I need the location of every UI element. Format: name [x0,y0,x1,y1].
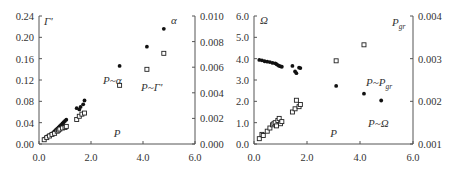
series-annotation: P~α [102,74,122,86]
chart-right: 0.02.04.06.00.01.02.03.04.05.06.00.0010.… [222,0,455,177]
chart-left-plot: 0.02.04.06.00.000.040.080.120.160.200.24… [0,0,228,177]
y-left-tick-label: 0.08 [16,96,34,107]
data-point [334,59,338,63]
y-left-tick-label: 2.0 [236,96,249,107]
y-right-tick-label: 0.001 [418,139,442,150]
x-tick-label: 2.0 [300,152,313,163]
y-left-tick-label: 6.0 [236,11,249,22]
data-point [81,102,85,106]
y-right-tick-label: 0.002 [200,113,224,124]
data-point [83,99,87,103]
y-left-tick-label: 5.0 [236,32,249,43]
data-point [295,71,299,75]
y-left-tick-label: 0.12 [16,75,34,86]
data-point [334,84,338,88]
chart-left: 0.02.04.06.00.000.040.080.120.160.200.24… [0,0,228,177]
data-point [280,65,284,69]
y-left-tick-label: 0.04 [16,118,35,129]
data-point [298,103,302,107]
data-point [257,137,261,141]
data-point [280,120,284,124]
y-left-tick-label: 0.16 [16,54,34,65]
data-point [362,43,366,47]
x-tick-label: 0.0 [247,152,260,163]
y-left-tick-label: 0.0 [236,139,249,150]
axes: 0.02.04.06.00.01.02.03.04.05.06.00.0010.… [236,11,443,163]
series-annotation: P~Γ' [140,81,163,93]
data-point [162,27,166,31]
y-left-axis-label: Ω [260,14,268,26]
data-point [291,64,295,68]
y-right-tick-label: 0.004 [418,11,442,22]
y-right-tick-label: 0.010 [200,11,224,22]
data-point [145,67,149,71]
data-point [261,133,265,137]
x-axis-label: P [329,127,337,139]
series-annotation: P~Pgr [365,76,392,91]
data-point [118,64,122,68]
y-left-tick-label: 0.00 [16,139,34,150]
data-point [83,111,87,115]
data-point [145,45,149,49]
data-point [64,124,68,128]
chart-right-plot: 0.02.04.06.00.01.02.03.04.05.06.00.0010.… [222,0,455,177]
data-point [362,92,366,96]
y-left-tick-label: 1.0 [236,118,249,129]
y-right-tick-label: 0.006 [200,62,224,73]
y-right-axis-label: α [171,14,177,26]
data-point [162,51,166,55]
series-P~P_gr [257,58,383,102]
series-P~Γ' [42,51,166,141]
y-right-tick-label: 0.004 [200,88,224,99]
data-point [64,118,68,122]
series-P~Ω [257,43,366,141]
y-left-tick-label: 3.0 [236,75,249,86]
y-right-tick-label: 0.003 [418,54,442,65]
data-point [293,107,297,111]
y-left-axis-label: Γ' [43,15,53,27]
x-tick-label: 6.0 [406,152,419,163]
y-right-tick-label: 0.008 [200,37,224,48]
x-tick-label: 2.0 [84,152,97,163]
y-right-tick-label: 0.002 [418,96,442,107]
data-point [298,66,302,70]
y-right-axis-label: Pgr [391,16,405,31]
x-tick-label: 4.0 [136,152,149,163]
x-axis-label: P [113,127,121,139]
series-annotation: P~Ω [367,117,389,129]
y-right-tick-label: 0.000 [200,139,224,150]
data-point [294,98,298,102]
y-left-tick-label: 0.20 [16,32,34,43]
x-tick-label: 4.0 [353,152,366,163]
y-left-tick-label: 0.24 [16,11,35,22]
data-point [379,99,383,103]
x-tick-label: 6.0 [188,152,201,163]
data-point [275,124,279,128]
y-left-tick-label: 4.0 [236,54,249,65]
x-tick-label: 0.0 [32,152,45,163]
